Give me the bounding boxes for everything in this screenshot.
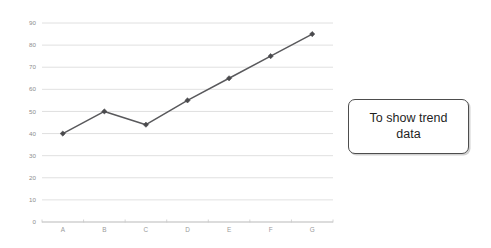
y-axis-tick-label: 50	[29, 108, 36, 115]
series-data-point	[102, 109, 107, 114]
callout-text: To show trend data	[362, 111, 456, 142]
x-axis-tick-label: D	[185, 226, 190, 233]
chart-series-line	[63, 34, 312, 134]
x-axis-tick-label: A	[61, 226, 66, 233]
series-data-point	[310, 31, 315, 36]
chart-ytick-labels: 0102030405060708090	[29, 19, 36, 225]
x-axis-tick-label: G	[310, 226, 315, 233]
chart-series-markers	[60, 31, 315, 136]
series-line-trend	[63, 34, 312, 134]
y-axis-tick-label: 10	[29, 196, 36, 203]
y-axis-tick-label: 20	[29, 174, 36, 181]
series-data-point	[226, 76, 231, 81]
y-axis-tick-label: 0	[33, 218, 37, 225]
chart-canvas: 0102030405060708090 ABCDEFG	[0, 0, 345, 248]
callout-box: To show trend data	[348, 99, 469, 154]
x-axis-tick-label: B	[102, 226, 106, 233]
y-axis-tick-label: 60	[29, 85, 36, 92]
series-data-point	[60, 131, 65, 136]
series-data-point	[268, 54, 273, 59]
x-axis-tick-label: F	[269, 226, 273, 233]
y-axis-tick-label: 30	[29, 152, 36, 159]
y-axis-tick-label: 80	[29, 41, 36, 48]
x-axis-tick-label: C	[144, 226, 149, 233]
chart-gridlines	[42, 23, 333, 222]
x-axis-tick-label: E	[227, 226, 231, 233]
line-chart: 0102030405060708090 ABCDEFG	[0, 0, 345, 248]
chart-xtick-labels: ABCDEFG	[61, 226, 315, 233]
y-axis-tick-label: 90	[29, 19, 36, 26]
y-axis-tick-label: 40	[29, 130, 36, 137]
y-axis-tick-label: 70	[29, 63, 36, 70]
